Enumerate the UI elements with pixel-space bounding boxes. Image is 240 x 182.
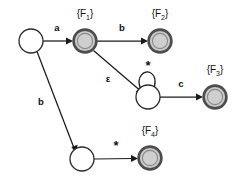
- edge-label-a: a: [54, 22, 60, 33]
- state-f3[interactable]: [204, 86, 227, 109]
- transition-epsilon: ε: [94, 51, 144, 94]
- edge-label-b-top: b: [119, 22, 125, 33]
- state-f2-inner-ring: [152, 33, 167, 48]
- state-label-f4-open: {F: [142, 125, 151, 136]
- edge-epsilon-line: [94, 51, 140, 90]
- state-mid[interactable]: [70, 147, 94, 171]
- state-start-circle[interactable]: [19, 29, 43, 53]
- state-label-f2-open: {F: [152, 8, 161, 19]
- edge-label-epsilon: ε: [106, 73, 111, 84]
- state-start[interactable]: [19, 29, 43, 53]
- state-f4-inner-ring: [142, 150, 157, 165]
- state-f2[interactable]: [149, 30, 172, 53]
- state-label-f2: {F2}: [152, 8, 169, 21]
- arrowhead-star-bottom: [131, 155, 138, 162]
- state-f4[interactable]: [139, 147, 162, 170]
- transition-c: c: [160, 78, 203, 100]
- state-label-f3-close: }: [220, 64, 224, 75]
- transition-b-top: b: [97, 22, 148, 44]
- state-loop[interactable]: [136, 85, 160, 109]
- state-label-f1-close: }: [90, 8, 94, 19]
- arrowhead-b-top: [141, 38, 148, 45]
- transition-a: a: [43, 22, 73, 44]
- edge-label-b-down: b: [38, 96, 44, 107]
- state-label-f4-close: }: [155, 125, 159, 136]
- state-f1[interactable]: [74, 30, 97, 53]
- edge-label-c: c: [178, 78, 183, 89]
- state-label-f1: {F1}: [77, 8, 94, 21]
- state-f3-inner-ring: [207, 89, 222, 104]
- edge-label-star-bottom: *: [113, 138, 119, 153]
- edge-label-star-loop: *: [145, 58, 151, 73]
- state-label-f1-open: {F: [77, 8, 86, 19]
- state-f1-inner-ring: [77, 33, 92, 48]
- automaton-diagram: f1 --> a f2 --> b loop --> ε * f3 -->: [0, 0, 240, 182]
- state-loop-circle[interactable]: [136, 85, 160, 109]
- transition-star-bottom: *: [94, 138, 138, 162]
- state-label-f2-close: }: [165, 8, 169, 19]
- transition-b-down: b: [37, 52, 78, 154]
- state-label-f4: {F4}: [142, 125, 159, 138]
- state-label-f3-open: {F: [207, 64, 216, 75]
- automaton-canvas: f1 --> a f2 --> b loop --> ε * f3 -->: [0, 0, 240, 182]
- edge-star-bottom-line: [94, 159, 133, 160]
- arrowhead-c: [196, 94, 203, 101]
- arrowhead-a: [66, 38, 73, 45]
- state-label-f3: {F3}: [207, 64, 224, 77]
- state-mid-circle[interactable]: [70, 147, 94, 171]
